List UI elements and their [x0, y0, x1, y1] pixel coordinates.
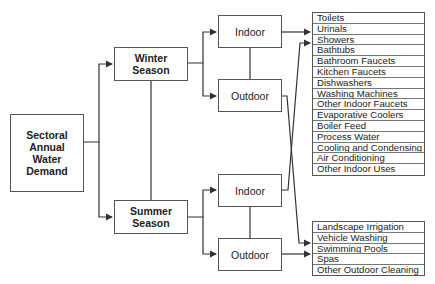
list-item: Bathroom Faucets: [313, 56, 424, 67]
summer-outdoor-label: Outdoor: [231, 249, 269, 261]
summer-indoor-node: Indoor: [218, 174, 282, 207]
list-item: Kitchen Faucets: [313, 67, 424, 78]
list-item: Bathtubs: [313, 45, 424, 56]
list-item: Toilets: [313, 13, 424, 24]
summer-indoor-label: Indoor: [235, 185, 265, 197]
winter-outdoor-node: Outdoor: [218, 79, 282, 112]
list-item: Dishwashers: [313, 78, 424, 89]
list-item: Other Outdoor Cleaning: [313, 265, 424, 276]
list-item: Vehicle Washing: [313, 233, 424, 244]
list-item: Urinals: [313, 24, 424, 35]
summer-line-2: Season: [132, 217, 169, 229]
list-item: Air Conditioning: [313, 153, 424, 164]
list-item: Other Indoor Uses: [313, 164, 424, 175]
winter-line-2: Season: [132, 64, 169, 76]
list-item: Showers: [313, 35, 424, 46]
list-item: Process Water: [313, 132, 424, 143]
outdoor-categories-list: Landscape Irrigation Vehicle Washing Swi…: [312, 221, 425, 276]
summer-outdoor-node: Outdoor: [218, 238, 282, 271]
root-line-2: Annual: [29, 141, 65, 153]
root-line-1: Sectoral: [26, 129, 67, 141]
winter-indoor-label: Indoor: [235, 26, 265, 38]
list-item: Cooling and Condensing: [313, 143, 424, 154]
list-item: Swimming Pools: [313, 244, 424, 255]
root-line-4: Demand: [26, 165, 67, 177]
list-item: Boiler Feed: [313, 121, 424, 132]
root-node-sectoral-demand: Sectoral Annual Water Demand: [10, 114, 84, 192]
indoor-categories-list: Toilets Urinals Showers Bathtubs Bathroo…: [312, 12, 425, 176]
list-item: Evaporative Coolers: [313, 110, 424, 121]
winter-indoor-node: Indoor: [218, 15, 282, 48]
list-item: Landscape Irrigation: [313, 222, 424, 233]
winter-line-1: Winter: [135, 52, 168, 64]
winter-outdoor-label: Outdoor: [231, 90, 269, 102]
root-line-3: Water: [33, 153, 62, 165]
list-item: Washing Machines: [313, 89, 424, 100]
winter-season-node: Winter Season: [114, 47, 188, 81]
summer-line-1: Summer: [130, 205, 172, 217]
list-item: Other Indoor Faucets: [313, 99, 424, 110]
summer-season-node: Summer Season: [114, 200, 188, 234]
list-item: Spas: [313, 254, 424, 265]
